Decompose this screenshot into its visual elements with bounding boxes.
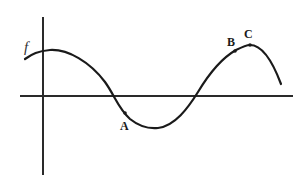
function-graph: f A B C: [0, 0, 302, 183]
point-b-label: B: [227, 35, 235, 49]
point-a-label: A: [120, 119, 129, 133]
function-curve: [25, 45, 281, 128]
point-a-marker: [123, 111, 127, 115]
function-label: f: [24, 39, 30, 55]
point-c-label: C: [244, 27, 253, 41]
point-c-marker: [248, 43, 252, 47]
point-b-marker: [233, 49, 237, 53]
